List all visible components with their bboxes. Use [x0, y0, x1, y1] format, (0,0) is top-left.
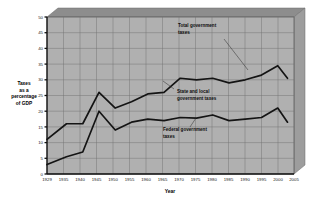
chart-bevel-top	[47, 8, 305, 17]
x-tick-label: 1975	[191, 177, 201, 182]
x-tick-label: 2000	[273, 177, 283, 182]
y-tick-label: 50	[38, 15, 43, 20]
y-axis-title-line: of GDP	[16, 101, 33, 106]
annotation-line: Federal government	[163, 127, 207, 132]
x-tick-label: 1985	[224, 177, 234, 182]
y-tick-label: 20	[38, 109, 43, 114]
annotation-line: Total government	[178, 23, 217, 28]
y-tick-label: 35	[38, 62, 43, 67]
annotation-line: government taxes	[177, 96, 217, 101]
tax-gdp-line-chart: 0 5 10 15 20 25 30 35 40 45 50 1929 1935…	[0, 0, 315, 200]
x-tick-label: 1945	[92, 177, 102, 182]
y-tick-label: 15	[38, 125, 43, 130]
chart-bevel-right	[294, 8, 305, 174]
x-tick-label: 1940	[75, 177, 85, 182]
x-tick-label: 1995	[257, 177, 267, 182]
y-axis-title-line: percentage	[11, 94, 37, 99]
annotation-line: taxes	[178, 30, 190, 35]
x-tick-label: 1970	[174, 177, 184, 182]
x-tick-label: 1935	[59, 177, 69, 182]
x-tick-label: 2005	[289, 177, 299, 182]
x-tick-label: 1950	[108, 177, 118, 182]
x-tick-label: 1955	[125, 177, 135, 182]
x-tick-label: 1990	[240, 177, 250, 182]
y-tick-label: 30	[38, 77, 43, 82]
y-axis-title-line: as a	[19, 88, 29, 93]
x-tick-label: 1960	[141, 177, 151, 182]
x-tick-label: 1929	[42, 177, 52, 182]
y-tick-label: 25	[38, 93, 43, 98]
y-tick-label: 10	[38, 140, 43, 145]
annotation-line: State and local	[177, 89, 209, 94]
y-tick-label: 40	[38, 46, 43, 51]
x-tick-label: 1965	[158, 177, 168, 182]
chart-canvas: 0 5 10 15 20 25 30 35 40 45 50 1929 1935…	[0, 0, 315, 200]
x-axis-title: Year	[165, 188, 176, 194]
y-axis-title-line: Taxes	[17, 81, 31, 86]
annotation-line: taxes	[163, 134, 175, 139]
x-tick-label: 1980	[207, 177, 217, 182]
y-tick-label: 45	[38, 30, 43, 35]
